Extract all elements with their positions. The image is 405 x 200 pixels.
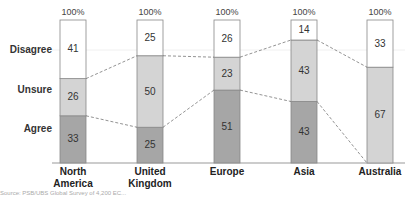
segment-value-label: 14	[291, 24, 317, 35]
bar-total-label: 100%	[207, 7, 247, 17]
connector-line	[163, 90, 214, 127]
connector-line	[163, 56, 214, 57]
segment-value-label: 41	[60, 43, 86, 54]
segment-value-label: 23	[214, 68, 240, 79]
bar-total-label: 100%	[284, 7, 324, 17]
row-label-agree: Agree	[2, 123, 52, 134]
bar-total-label: 100%	[130, 7, 170, 17]
segment-value-label: 26	[214, 33, 240, 44]
segment-value-label: 43	[291, 65, 317, 76]
segment-value-label: 33	[60, 133, 86, 144]
bar-total-label: 100%	[360, 7, 400, 17]
category-label: UnitedKingdom	[115, 166, 185, 190]
category-label: Australia	[345, 166, 405, 178]
connector-line	[86, 56, 137, 79]
segment-value-label: 25	[137, 139, 163, 150]
row-label-disagree: Disagree	[2, 44, 52, 55]
segment-value-label: 51	[214, 121, 240, 132]
segment-value-label: 26	[60, 91, 86, 102]
category-label: Europe	[192, 166, 262, 178]
connector-line	[86, 116, 137, 127]
connector-line	[240, 40, 291, 57]
segment-value-label: 43	[291, 126, 317, 137]
segment-value-label: 33	[367, 38, 393, 49]
category-label: NorthAmerica	[38, 166, 108, 190]
category-label: Asia	[269, 166, 339, 178]
source-note: Source: PSB/UBS Global Survey of 4,200 E…	[0, 190, 126, 196]
connector-line	[317, 102, 367, 163]
segment-value-label: 25	[137, 32, 163, 43]
segment-value-label: 50	[137, 86, 163, 97]
connector-line	[240, 90, 291, 101]
segment-value-label: 67	[367, 109, 393, 120]
row-label-unsure: Unsure	[2, 84, 52, 95]
connector-line	[317, 40, 367, 67]
bar-total-label: 100%	[53, 7, 93, 17]
